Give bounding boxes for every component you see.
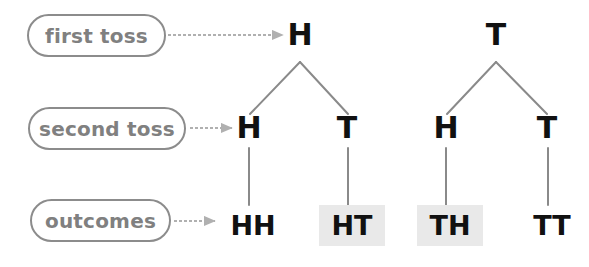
node-root-h: H [283, 18, 317, 52]
node-outcome-hh: HH [220, 205, 286, 246]
node-t-t: T [530, 111, 564, 145]
node-outcome-th: TH [417, 205, 483, 246]
edge-root-h-to-t [300, 62, 348, 114]
tree-edge-group [249, 62, 548, 205]
row-label-first-toss: first toss [27, 14, 166, 57]
node-outcome-ht: HT [319, 205, 385, 246]
node-root-t: T [479, 18, 513, 52]
node-outcome-tt: TT [519, 205, 585, 246]
edge-root-t-to-t [496, 62, 547, 114]
row-label-outcomes: outcomes [30, 199, 171, 242]
node-t-h: H [429, 111, 463, 145]
node-h-h: H [232, 111, 266, 145]
node-h-t: T [330, 111, 364, 145]
row-label-second-toss: second toss [28, 107, 186, 150]
edge-root-t-to-h [447, 62, 496, 114]
tree-diagram: first tosssecond tossoutcomes HTHTHTHHHT… [0, 0, 589, 267]
edge-root-h-to-h [250, 62, 300, 114]
